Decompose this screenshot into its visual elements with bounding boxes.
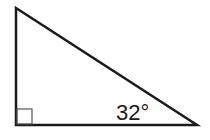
triangle-outline [16,8,197,125]
angle-label: 32° [116,100,149,125]
right-angle-marker [17,109,32,124]
right-triangle-diagram: 32° [0,0,210,140]
